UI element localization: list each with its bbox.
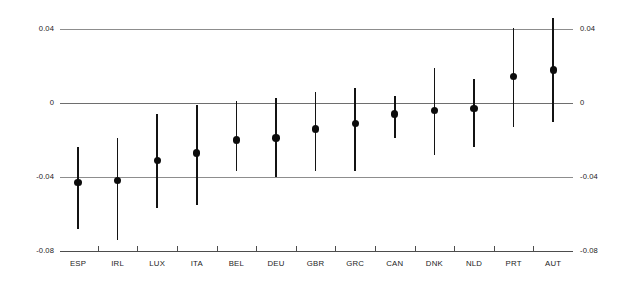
x-axis-tick-3 xyxy=(217,246,218,251)
x-axis-tick-5 xyxy=(296,246,297,251)
x-axis-label-deu: DEU xyxy=(256,260,296,268)
x-axis-label-ita: ITA xyxy=(177,260,217,268)
y-tick-label-left-2: -0.04 xyxy=(8,173,54,181)
y-tick-label-right-0: 0.04 xyxy=(580,25,626,33)
x-axis-label-dnk: DNK xyxy=(414,260,454,268)
x-axis-label-grc: GRC xyxy=(335,260,375,268)
data-point-dnk xyxy=(431,107,438,114)
x-axis-tick-2 xyxy=(177,246,178,251)
error-bar-nld xyxy=(473,79,475,147)
data-point-bel xyxy=(233,136,240,143)
data-point-nld xyxy=(470,105,477,112)
x-axis-tick-6 xyxy=(335,246,336,251)
error-bar-grc xyxy=(354,88,356,171)
y-tick-label-left-1: 0 xyxy=(8,99,54,107)
data-point-prt xyxy=(510,73,517,80)
x-axis-label-esp: ESP xyxy=(58,260,98,268)
y-tick-label-left-0: 0.04 xyxy=(8,25,54,33)
data-point-can xyxy=(391,110,398,117)
y-tick-label-right-3: -0.08 xyxy=(580,247,626,255)
gridline-0.04 xyxy=(60,29,573,30)
data-point-deu xyxy=(272,134,279,141)
data-point-ita xyxy=(193,149,200,156)
x-axis-tick-8 xyxy=(415,246,416,251)
x-axis-label-nld: NLD xyxy=(454,260,494,268)
x-axis-tick-1 xyxy=(137,246,138,251)
x-axis-label-irl: IRL xyxy=(98,260,138,268)
x-axis-line xyxy=(60,251,573,252)
x-axis-tick-4 xyxy=(256,246,257,251)
data-point-lux xyxy=(154,157,161,164)
data-point-irl xyxy=(114,177,121,184)
chart-container: 0.040-0.04-0.08 0.040-0.04-0.08 ESPIRLLU… xyxy=(0,0,628,286)
zero-reference-line xyxy=(60,103,573,104)
y-tick-label-left-3: -0.08 xyxy=(8,247,54,255)
error-bar-irl xyxy=(117,138,119,239)
data-point-grc xyxy=(352,120,359,127)
y-tick-label-right-1: 0 xyxy=(580,99,626,107)
data-point-aut xyxy=(550,66,557,73)
x-axis-tick-7 xyxy=(375,246,376,251)
x-axis-label-bel: BEL xyxy=(216,260,256,268)
x-axis-label-can: CAN xyxy=(375,260,415,268)
y-tick-label-right-2: -0.04 xyxy=(580,173,626,181)
data-point-esp xyxy=(74,179,81,186)
x-axis-tick-11 xyxy=(533,246,534,251)
x-axis-tick-9 xyxy=(454,246,455,251)
x-axis-label-aut: AUT xyxy=(533,260,573,268)
plot-area: 0.040-0.04-0.08 0.040-0.04-0.08 ESPIRLLU… xyxy=(0,0,628,286)
gridline--0.04 xyxy=(60,177,573,178)
x-axis-tick-0 xyxy=(98,246,99,251)
data-point-gbr xyxy=(312,125,319,132)
x-axis-tick-10 xyxy=(494,246,495,251)
x-axis-label-lux: LUX xyxy=(137,260,177,268)
x-axis-label-prt: PRT xyxy=(494,260,534,268)
error-bar-esp xyxy=(77,147,79,228)
x-axis-label-gbr: GBR xyxy=(296,260,336,268)
